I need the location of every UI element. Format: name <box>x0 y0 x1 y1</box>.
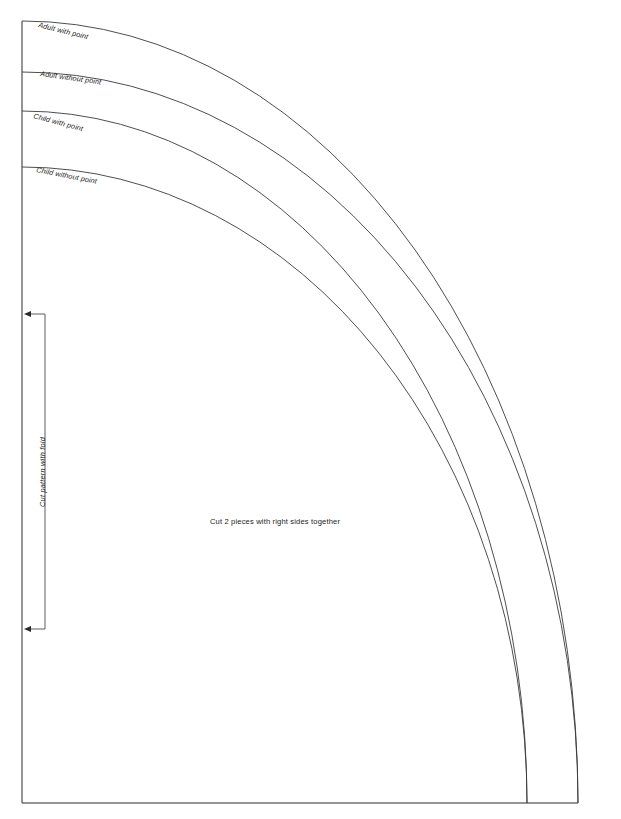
cut-pieces-note: Cut 2 pieces with right sides together <box>210 517 341 526</box>
cut-line-child-with-point <box>22 111 527 803</box>
curve-label-child-without-point: Child without point <box>36 165 99 186</box>
fold-instruction-label: Cut pattern with fold <box>38 436 47 507</box>
cut-line-adult-with-point <box>22 21 578 803</box>
sewing-pattern-sheet: Adult with point Adult without point Chi… <box>0 0 621 819</box>
curve-label-adult-without-point: Adult without point <box>39 69 103 87</box>
cut-line-child-without-point <box>22 167 527 803</box>
curve-label-child-with-point: Child with point <box>32 111 85 133</box>
arrow-head-bottom-icon <box>24 626 31 632</box>
pattern-drawing: Adult with point Adult without point Chi… <box>0 0 621 819</box>
arrow-head-top-icon <box>24 311 31 317</box>
cut-line-adult-without-point <box>22 72 578 803</box>
